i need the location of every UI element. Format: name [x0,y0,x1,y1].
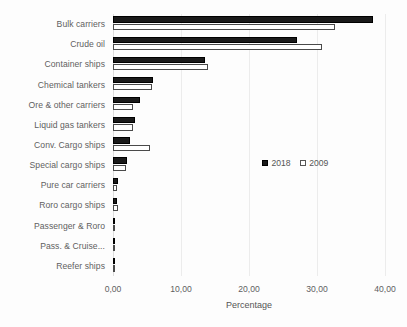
bar-2009-crude-oil [113,44,322,50]
bar-2018-pass-cruise [113,238,115,244]
bar-2018-reefer-ships [113,258,115,264]
category-row: Roro cargo ships [113,195,385,215]
bar-2018-pure-car-carriers [113,178,118,184]
bar-2009-passenger-roro [113,225,115,231]
category-row: Bulk carriers [113,14,385,34]
category-row: Chemical tankers [113,74,385,94]
legend-label: 2009 [309,158,328,168]
category-label: Chemical tankers [38,80,105,90]
chart-title [0,0,407,6]
category-label: Ore & other carriers [29,100,105,110]
bar-2009-ore-other-carriers [113,104,133,110]
gridline [385,14,386,276]
bar-2009-liquid-gas-tankers [113,124,133,130]
bar-2018-special-cargo-ships [113,157,127,163]
x-tick-label: 30,00 [306,284,328,294]
plot-area: Bulk carriersCrude oilContainer shipsChe… [113,14,385,276]
bar-chart: Bulk carriersCrude oilContainer shipsChe… [0,0,407,327]
bar-2018-passenger-roro [113,218,115,224]
bar-2018-chemical-tankers [113,77,153,83]
category-label: Crude oil [70,39,105,49]
category-label: Roro cargo ships [39,200,105,210]
category-label: Container ships [45,59,105,69]
category-label: Special cargo ships [30,160,105,170]
category-row: Conv. Cargo ships [113,135,385,155]
category-row: Passenger & Roro [113,216,385,236]
filled-square-icon [262,160,268,166]
x-axis-title: Percentage [113,300,385,310]
bar-2018-liquid-gas-tankers [113,117,135,123]
chart-legend: 20182009 [262,158,328,168]
category-row: Pass. & Cruise... [113,236,385,256]
bar-2018-roro-cargo-ships [113,198,117,204]
bar-2018-ore-other-carriers [113,97,140,103]
legend-entry-2018[interactable]: 2018 [262,158,291,168]
legend-entry-2009[interactable]: 2009 [300,158,329,168]
bar-2009-roro-cargo-ships [113,205,118,211]
category-label: Pass. & Cruise... [40,241,105,251]
bar-2009-chemical-tankers [113,84,152,90]
category-row: Pure car carriers [113,175,385,195]
bar-2009-pure-car-carriers [113,185,117,191]
bar-2009-special-cargo-ships [113,165,126,171]
category-row: Ore & other carriers [113,95,385,115]
bar-2018-bulk-carriers [113,16,373,22]
bar-2009-reefer-ships [113,265,115,271]
bar-rows: Bulk carriersCrude oilContainer shipsChe… [113,14,385,276]
bar-2018-container-ships [113,57,205,63]
bar-2009-container-ships [113,64,208,70]
x-tick-label: 10,00 [170,284,192,294]
bar-2009-bulk-carriers [113,24,335,30]
category-row: Liquid gas tankers [113,115,385,135]
category-label: Pure car carriers [41,180,105,190]
category-row: Container ships [113,54,385,74]
hollow-square-icon [300,160,306,166]
x-tick-label: 20,00 [238,284,260,294]
bar-2018-conv-cargo-ships [113,137,130,143]
category-label: Passenger & Roro [34,221,105,231]
category-label: Reefer ships [56,261,105,271]
category-row: Reefer ships [113,256,385,276]
bar-2009-pass-cruise [113,245,115,251]
category-label: Bulk carriers [57,19,105,29]
category-row: Crude oil [113,34,385,54]
category-label: Conv. Cargo ships [34,140,105,150]
bar-2018-crude-oil [113,37,297,43]
category-label: Liquid gas tankers [34,120,105,130]
category-row: Special cargo ships [113,155,385,175]
bar-2009-conv-cargo-ships [113,145,150,151]
x-tick-label: 0,00 [105,284,122,294]
legend-label: 2018 [272,158,291,168]
x-axis-ticks: 0,0010,0020,0030,0040,00 [113,284,385,296]
x-tick-label: 40,00 [374,284,396,294]
